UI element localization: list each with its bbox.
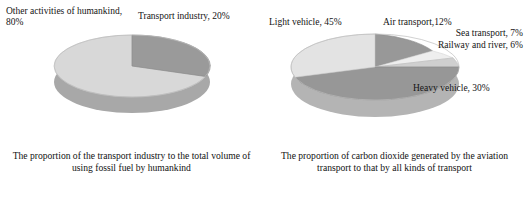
pie-left-label-other-activities: Other activities of humankind, 80% — [6, 6, 126, 29]
figure-right-caption: The proportion of carbon dioxide generat… — [271, 150, 518, 174]
figure-co2-transport: Light vehicle, 45% Air transport,12% Sea… — [263, 0, 526, 198]
pie-chart-right: Light vehicle, 45% Air transport,12% Sea… — [263, 0, 526, 148]
pie-right-label-air-transport: Air transport,12% — [383, 17, 493, 28]
pie-right-label-railway-river: Railway and river, 6% — [413, 40, 523, 51]
pie-left-label-transport-industry: Transport industry, 20% — [138, 11, 258, 22]
pie-right-label-heavy-vehicle: Heavy vehicle, 30% — [413, 83, 523, 94]
figure-transport-fossil-fuel: Other activities of humankind, 80% Trans… — [0, 0, 263, 198]
pie-chart-left: Other activities of humankind, 80% Trans… — [0, 0, 263, 148]
figure-left-caption: The proportion of the transport industry… — [8, 150, 255, 174]
pie-right-label-sea-transport: Sea transport, 7% — [396, 28, 523, 39]
pie-right-label-light-vehicle: Light vehicle, 45% — [269, 17, 379, 28]
